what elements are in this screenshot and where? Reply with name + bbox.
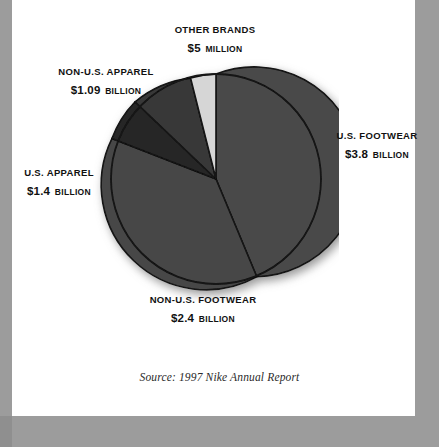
pie-chart: OTHER BRANDS $5 MILLION NON-U.S. APPAREL… [0, 0, 439, 447]
pie-label-us-apparel-amount: $1.4 [27, 185, 50, 197]
pie-label-non-us-footwear-amount: $2.4 [171, 312, 194, 324]
pie-label-other-brands-name: OTHER BRANDS [155, 24, 275, 36]
pie-label-non-us-apparel-amount: $1.09 [71, 84, 101, 96]
pie-label-us-apparel-unit: BILLION [55, 187, 91, 197]
pie-label-us-footwear-unit: BILLION [373, 150, 409, 160]
pie-label-non-us-footwear: NON-U.S. FOOTWEAR $2.4 BILLION [122, 294, 284, 326]
pie-label-non-us-footwear-name: NON-U.S. FOOTWEAR [122, 294, 284, 306]
pie-label-other-brands-amount: $5 [188, 42, 201, 54]
pie-label-non-us-apparel-unit: BILLION [105, 86, 141, 96]
pie-label-other-brands-unit: MILLION [205, 44, 242, 54]
pie-label-other-brands-value: $5 MILLION [155, 37, 275, 57]
pie-label-non-us-apparel-name: NON-U.S. APPAREL [36, 66, 176, 78]
pie-label-us-apparel-name: U.S. APPAREL [6, 167, 112, 179]
pie-label-us-apparel: U.S. APPAREL $1.4 BILLION [6, 167, 112, 199]
pie-label-us-apparel-value: $1.4 BILLION [6, 180, 112, 200]
pie-label-non-us-apparel-value: $1.09 BILLION [36, 79, 176, 99]
pie-slices-group [101, 67, 339, 290]
pie-label-us-footwear: U.S. FOOTWEAR $3.8 BILLION [318, 130, 436, 162]
pie-label-us-footwear-value: $3.8 BILLION [318, 143, 436, 163]
pie-label-us-footwear-amount: $3.8 [345, 148, 368, 160]
pie-label-other-brands: OTHER BRANDS $5 MILLION [155, 24, 275, 56]
pie-label-non-us-apparel: NON-U.S. APPAREL $1.09 BILLION [36, 66, 176, 98]
chart-page: OTHER BRANDS $5 MILLION NON-U.S. APPAREL… [0, 0, 439, 447]
pie-label-non-us-footwear-value: $2.4 BILLION [122, 307, 284, 327]
pie-label-us-footwear-name: U.S. FOOTWEAR [318, 130, 436, 142]
pie-label-non-us-footwear-unit: BILLION [199, 314, 235, 324]
source-note: Source: 1997 Nike Annual Report [0, 371, 439, 383]
